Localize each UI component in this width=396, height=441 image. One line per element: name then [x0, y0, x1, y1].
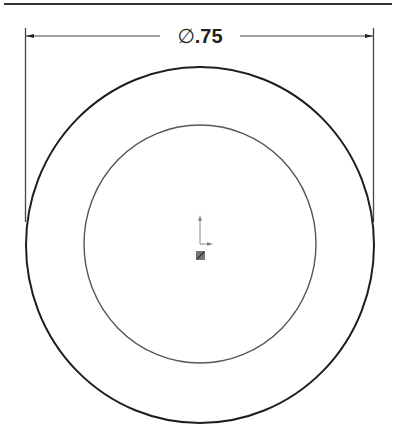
diameter-symbol: ∅: [177, 24, 194, 48]
diameter-dimension-label[interactable]: ∅.75: [160, 24, 240, 48]
diameter-value: .75: [195, 25, 223, 47]
coordinate-origin-icon: [196, 215, 213, 260]
arrowhead-right-icon: [365, 34, 373, 38]
arrowhead-left-icon: [26, 34, 34, 38]
drawing-canvas: [0, 0, 396, 441]
outer-circle[interactable]: [26, 67, 374, 423]
